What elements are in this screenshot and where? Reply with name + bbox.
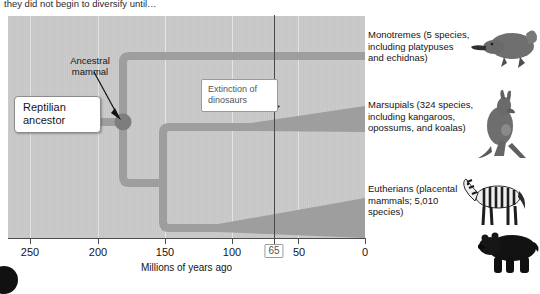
caption-text: they did not begin to diversify until… [4,0,304,9]
x-axis-ticklabel-100: 100 [223,246,241,258]
x-axis-tick-50 [298,238,299,244]
x-axis-ticklabel-150: 150 [156,246,174,258]
x-axis-tick-0 [365,238,366,244]
x-axis-ticklabel-200: 200 [89,246,107,258]
x-axis-tick-150 [165,238,166,244]
platypus-image [468,22,540,70]
ancestral-mammal-label: Ancestral mammal [52,55,128,77]
x-axis-ticklabel-250: 250 [21,246,39,258]
bear-image [478,228,540,276]
x-axis-ticklabel-0: 0 [362,246,368,258]
legend-label-marsupials: Marsupials (324 species, including kanga… [368,99,480,134]
x-axis-ticklabel-50: 50 [293,246,305,258]
legend-label-monotremes: Monotremes (5 species, including platypu… [368,29,480,64]
x-axis-tick-100 [232,238,233,244]
reptilian-ancestor-label: Reptilian ancestor [14,96,101,133]
x-axis-ticklabel-65: 65 [264,244,283,258]
x-axis-tick-250 [30,238,31,244]
extinction-of-dinosaurs-label: Extinction of dinosaurs [201,79,278,112]
zebra-image [458,175,530,231]
x-axis-title: Millions of years ago [8,262,365,273]
extinction-event-line [274,15,275,244]
x-axis-tick-200 [98,238,99,244]
x-axis-line [8,238,365,239]
kangaroo-image [474,88,534,164]
